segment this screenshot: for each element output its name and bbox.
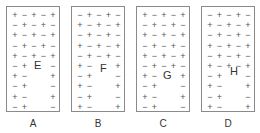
negative-charge: −: [113, 30, 123, 40]
positive-charge: +: [75, 20, 85, 30]
positive-charge: +: [48, 30, 58, 40]
positive-charge: +: [29, 51, 39, 61]
negative-charge: −: [20, 92, 30, 102]
negative-charge: −: [159, 61, 169, 71]
negative-charge: −: [48, 81, 58, 91]
positive-charge: +: [104, 30, 114, 40]
positive-charge: +: [104, 10, 114, 20]
positive-charge: +: [85, 30, 95, 40]
positive-charge: +: [10, 10, 20, 20]
positive-charge: +: [75, 102, 85, 112]
negative-charge: −: [215, 20, 225, 30]
panel-label-d: D: [201, 118, 255, 129]
positive-charge: +: [20, 20, 30, 30]
positive-charge: +: [20, 41, 30, 51]
positive-charge: +: [140, 71, 150, 81]
negative-charge: −: [178, 81, 188, 91]
negative-charge: −: [178, 41, 188, 51]
negative-charge: −: [150, 71, 160, 81]
positive-charge: +: [159, 10, 169, 20]
negative-charge: −: [140, 81, 150, 91]
negative-charge: −: [224, 30, 234, 40]
negative-charge: −: [39, 10, 49, 20]
positive-charge: +: [178, 51, 188, 61]
panel-b: F −+−+−+−+−+−+−+−+−+−+−+−+−+−+−+−+−+−+−+…: [71, 6, 125, 112]
negative-charge: −: [10, 102, 20, 112]
positive-charge: +: [29, 10, 39, 20]
negative-charge: −: [75, 51, 85, 61]
positive-charge: +: [215, 92, 225, 102]
positive-charge: +: [94, 20, 104, 30]
negative-charge: −: [140, 102, 150, 112]
positive-charge: +: [85, 10, 95, 20]
negative-charge: −: [243, 10, 253, 20]
negative-charge: −: [104, 20, 114, 30]
positive-charge: +: [159, 30, 169, 40]
positive-charge: +: [48, 71, 58, 81]
positive-charge: +: [113, 20, 123, 30]
negative-charge: −: [39, 51, 49, 61]
positive-charge: +: [215, 71, 225, 81]
positive-charge: +: [243, 61, 253, 71]
positive-charge: +: [113, 41, 123, 51]
negative-charge: −: [20, 30, 30, 40]
negative-charge: −: [29, 20, 39, 30]
positive-charge: +: [150, 61, 160, 71]
negative-charge: −: [205, 10, 215, 20]
positive-charge: +: [48, 51, 58, 61]
positive-charge: +: [48, 10, 58, 20]
negative-charge: −: [150, 92, 160, 102]
positive-charge: +: [20, 61, 30, 71]
positive-charge: +: [10, 51, 20, 61]
negative-charge: −: [48, 20, 58, 30]
negative-charge: −: [104, 41, 114, 51]
positive-charge: +: [150, 102, 160, 112]
negative-charge: −: [75, 30, 85, 40]
positive-charge: +: [150, 41, 160, 51]
positive-charge: +: [150, 20, 160, 30]
negative-charge: −: [113, 92, 123, 102]
positive-charge: +: [169, 41, 179, 51]
negative-charge: −: [224, 51, 234, 61]
negative-charge: −: [205, 51, 215, 61]
positive-charge: +: [140, 10, 150, 20]
negative-charge: −: [140, 20, 150, 30]
positive-charge: +: [243, 20, 253, 30]
negative-charge: −: [85, 61, 95, 71]
negative-charge: −: [29, 41, 39, 51]
negative-charge: −: [215, 61, 225, 71]
negative-charge: −: [48, 41, 58, 51]
negative-charge: −: [215, 41, 225, 51]
negative-charge: −: [215, 81, 225, 91]
positive-charge: +: [215, 10, 225, 20]
negative-charge: −: [113, 10, 123, 20]
positive-charge: +: [10, 30, 20, 40]
positive-charge: +: [140, 51, 150, 61]
positive-charge: +: [85, 51, 95, 61]
positive-charge: +: [150, 81, 160, 91]
positive-charge: +: [169, 61, 179, 71]
negative-charge: −: [178, 102, 188, 112]
positive-charge: +: [215, 30, 225, 40]
positive-charge: +: [205, 102, 215, 112]
positive-charge: +: [224, 20, 234, 30]
positive-charge: +: [94, 41, 104, 51]
positive-charge: +: [224, 61, 234, 71]
positive-charge: +: [113, 61, 123, 71]
negative-charge: −: [150, 51, 160, 61]
negative-charge: −: [113, 51, 123, 61]
positive-charge: +: [39, 41, 49, 51]
negative-charge: −: [169, 10, 179, 20]
positive-charge: +: [20, 81, 30, 91]
negative-charge: −: [243, 51, 253, 61]
negative-charge: −: [113, 71, 123, 81]
negative-charge: −: [85, 20, 95, 30]
negative-charge: −: [178, 20, 188, 30]
negative-charge: −: [243, 92, 253, 102]
negative-charge: −: [159, 20, 169, 30]
point-label: E: [34, 60, 41, 71]
positive-charge: +: [113, 102, 123, 112]
panel-d: H −+−+−+−+−+−+−+−+−+−+−+−+−+−+−+−+−+−+−+…: [201, 6, 255, 112]
positive-charge: +: [75, 61, 85, 71]
positive-charge: +: [75, 41, 85, 51]
